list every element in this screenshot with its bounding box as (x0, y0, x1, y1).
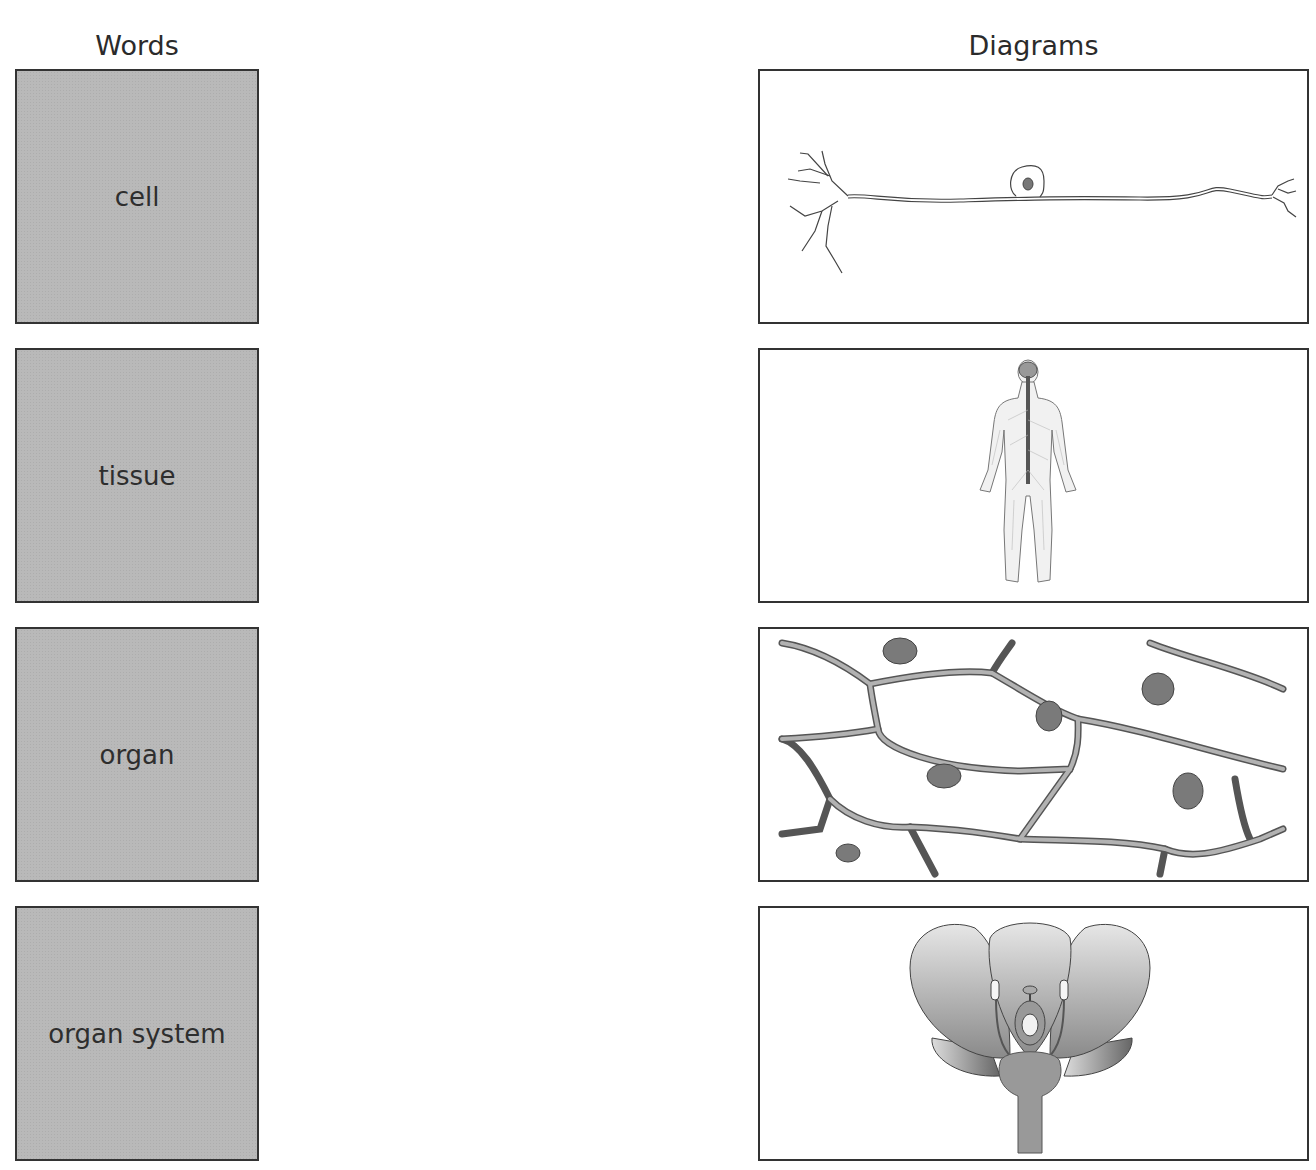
word-card-organ[interactable]: organ (15, 627, 259, 882)
word-label: organ (99, 740, 174, 770)
word-card-cell[interactable]: cell (15, 69, 259, 324)
word-card-organ-system[interactable]: organ system (15, 906, 259, 1161)
diagrams-column-title: Diagrams (758, 30, 1309, 61)
neuron-illustration (760, 71, 1307, 322)
diagram-card-flower[interactable] (758, 906, 1309, 1161)
nervous-system-illustration (760, 350, 1307, 601)
diagram-card-nervous-system[interactable] (758, 348, 1309, 603)
plant-tissue-illustration (760, 629, 1307, 880)
word-label: cell (115, 182, 160, 212)
flower-illustration (760, 908, 1307, 1159)
diagram-card-neuron[interactable] (758, 69, 1309, 324)
diagram-card-plant-cells[interactable] (758, 627, 1309, 882)
word-card-tissue[interactable]: tissue (15, 348, 259, 603)
word-label: tissue (99, 461, 176, 491)
word-label: organ system (48, 1019, 225, 1049)
words-column-title: Words (15, 30, 259, 61)
